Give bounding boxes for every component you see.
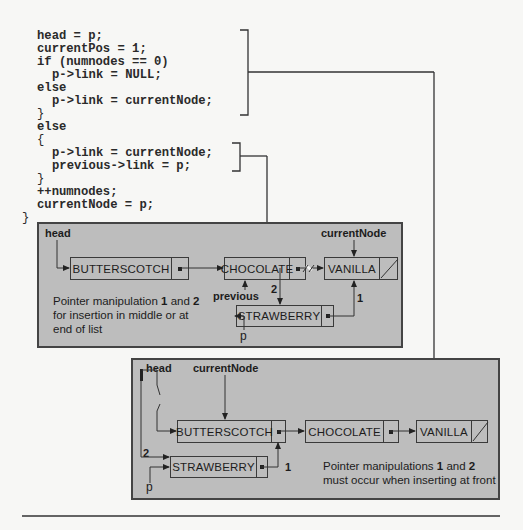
step-2-label: 2 <box>143 447 149 459</box>
code-listing: head = p; currentPos = 1; if (numnodes =… <box>0 0 15 210</box>
code-line: } <box>22 212 29 225</box>
node-data: VANILLA <box>325 258 380 279</box>
front-insert-note: Pointer manipulations 1 and 2 must occur… <box>323 459 496 487</box>
middle-insert-note: Pointer manipulation 1 and 2 for inserti… <box>53 294 199 336</box>
node-chocolate: CHOCOLATE <box>224 257 306 280</box>
node-pointer <box>257 457 267 477</box>
code-line: p->link = NULL; <box>52 69 162 82</box>
node-vanilla: VANILLA <box>416 420 488 443</box>
p-label: p <box>146 480 153 494</box>
head-label: head <box>146 362 172 374</box>
null-pointer-icon <box>472 421 487 442</box>
node-data: VANILLA <box>417 421 472 442</box>
step-1-label: 1 <box>357 292 363 304</box>
node-data: STRAWBERRY <box>237 306 322 326</box>
code-line: previous->link = p; <box>52 160 191 173</box>
node-data: CHOCOLATE <box>225 258 290 279</box>
step-2-label: 2 <box>271 283 277 295</box>
code-line: currentNode = p; <box>37 199 154 212</box>
null-pointer-icon <box>380 258 397 279</box>
node-pointer <box>384 421 398 442</box>
node-pointer <box>322 306 333 326</box>
node-data: STRAWBERRY <box>171 457 257 477</box>
node-vanilla: VANILLA <box>324 257 398 280</box>
head-label: head <box>45 227 71 239</box>
current-node-label: currentNode <box>193 362 258 374</box>
current-node-label: currentNode <box>321 227 386 239</box>
node-data: CHOCOLATE <box>306 421 384 442</box>
code-line: p->link = currentNode; <box>52 95 213 108</box>
p-label: p <box>240 329 247 343</box>
node-butterscotch: BUTTERSCOTCH <box>70 257 189 280</box>
node-data: BUTTERSCOTCH <box>178 421 272 442</box>
node-pointer <box>272 421 285 442</box>
previous-label: previous <box>213 290 259 302</box>
node-strawberry: STRAWBERRY <box>236 305 334 327</box>
node-pointer <box>172 258 188 279</box>
step-1-label: 1 <box>285 461 291 473</box>
node-strawberry: STRAWBERRY <box>170 456 268 478</box>
node-chocolate: CHOCOLATE <box>305 420 399 443</box>
code-line: { <box>37 134 44 147</box>
node-data: BUTTERSCOTCH <box>71 258 172 279</box>
node-pointer <box>290 258 305 279</box>
node-butterscotch: BUTTERSCOTCH <box>177 420 286 443</box>
